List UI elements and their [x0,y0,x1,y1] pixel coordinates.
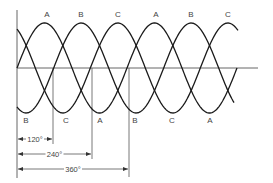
peak-label: C [115,10,121,19]
trough-label: A [97,116,103,125]
trough-label: B [132,116,137,125]
trough-label: B [23,116,28,125]
dimension-arrows: 120°240°360° [18,135,128,174]
peak-label: A [153,10,159,19]
arrow-left-icon [18,137,23,141]
trough-label: C [169,116,175,125]
arrow-left-icon [18,152,23,156]
arrow-right-icon [86,152,91,156]
dimension-label: 120° [27,135,43,144]
trough-label: C [63,116,69,125]
trough-labels: BCABCA [23,116,213,125]
arrow-right-icon [123,167,128,171]
peak-labels: ABCABC [44,10,231,19]
peak-label: B [78,10,83,19]
arrow-left-icon [18,167,23,171]
peak-label: A [44,10,50,19]
dimension-360: 360° [18,165,128,174]
peak-label: B [188,10,193,19]
dimension-label: 240° [47,150,63,159]
three-phase-waveform-diagram: ABCABC BCABCA 120°240°360° [0,0,273,183]
peak-label: C [225,10,231,19]
dimension-240: 240° [18,150,91,159]
dimension-120: 120° [18,135,52,144]
arrow-right-icon [47,137,52,141]
trough-label: A [207,116,213,125]
dimension-label: 360° [65,165,81,174]
